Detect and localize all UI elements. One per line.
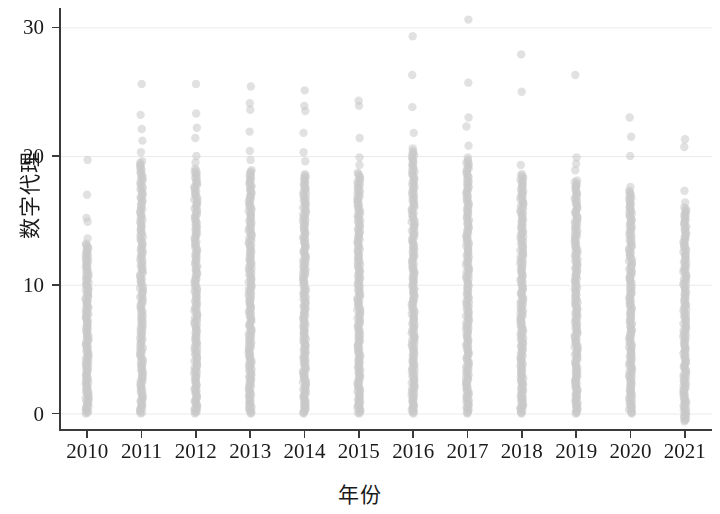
y-tick-label: 0 — [0, 404, 44, 425]
y-tick-label: 30 — [0, 17, 44, 38]
y-tick-mark — [52, 27, 59, 29]
x-tick-mark — [141, 430, 143, 438]
x-tick-mark — [467, 430, 469, 438]
y-tick-mark — [52, 413, 59, 415]
x-tick-mark — [86, 430, 88, 438]
y-tick-mark — [52, 284, 59, 286]
x-tick-mark — [630, 430, 632, 438]
plot-area — [60, 8, 712, 429]
x-tick-mark — [195, 430, 197, 438]
y-tick-mark — [52, 155, 59, 157]
x-tick-mark — [249, 430, 251, 438]
x-tick-mark — [575, 430, 577, 438]
x-tick-mark — [684, 430, 686, 438]
x-tick-mark — [358, 430, 360, 438]
x-tick-mark — [521, 430, 523, 438]
x-tick-mark — [412, 430, 414, 438]
y-axis-spine — [59, 8, 61, 430]
x-tick-mark — [304, 430, 306, 438]
x-axis-title: 年份 — [0, 478, 720, 508]
x-tick-label: 2021 — [653, 441, 717, 462]
scatter-chart: 0102030 20102011201220132014201520162017… — [0, 0, 720, 514]
y-axis-title: 数字代理 — [13, 75, 43, 315]
data-points-layer — [60, 8, 712, 429]
x-axis-spine — [59, 429, 712, 431]
